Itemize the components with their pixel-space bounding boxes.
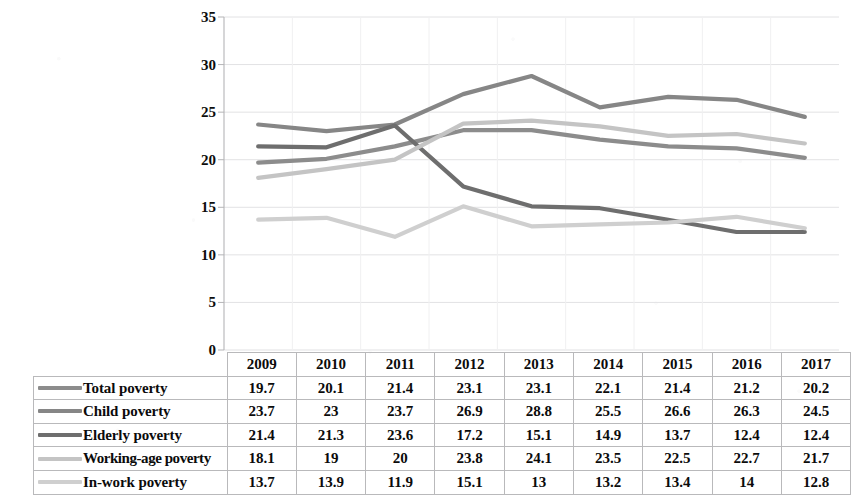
- table-cell: 12.8: [781, 470, 850, 494]
- legend-label: Child poverty: [83, 400, 170, 423]
- y-tick-label-35: 35: [182, 10, 216, 25]
- y-tick-label-20: 20: [182, 153, 216, 168]
- legend-item-total-poverty: Total poverty: [34, 376, 228, 400]
- table-cell: 21.7: [781, 447, 850, 471]
- table-cell: 23.1: [435, 376, 504, 400]
- table-cell: 21.2: [712, 376, 781, 400]
- table-header-2009: 2009: [227, 353, 296, 377]
- series-line-in-work-poverty: [258, 206, 805, 237]
- legend-swatch-icon: [38, 386, 82, 390]
- legend-swatch-icon: [38, 409, 82, 413]
- table-cell: 22.5: [643, 447, 712, 471]
- table-cell: 25.5: [573, 400, 642, 424]
- plot-svg: [0, 0, 841, 352]
- y-tick-label-25: 25: [182, 105, 216, 120]
- table-cell: 14.9: [573, 423, 642, 447]
- table-header-2017: 2017: [781, 353, 850, 377]
- table-cell: 23.8: [435, 447, 504, 471]
- table-cell: 21.3: [296, 423, 365, 447]
- table-cell: 12.4: [781, 423, 850, 447]
- table-row: Total poverty19.720.121.423.123.122.121.…: [34, 376, 851, 400]
- table-cell: 20: [366, 447, 435, 471]
- table-cell: 23.7: [227, 400, 296, 424]
- table-cell: 20.1: [296, 376, 365, 400]
- table-header-2010: 2010: [296, 353, 365, 377]
- legend-item-child-poverty: Child poverty: [34, 400, 228, 424]
- table-cell: 13.2: [573, 470, 642, 494]
- table-cell: 22.1: [573, 376, 642, 400]
- table-cell: 13.7: [227, 470, 296, 494]
- table-cell: 26.9: [435, 400, 504, 424]
- table-cell: 13.4: [643, 470, 712, 494]
- table-cell: 15.1: [504, 423, 573, 447]
- y-tick-label-5: 5: [182, 295, 216, 310]
- y-tick-label-10: 10: [182, 248, 216, 263]
- line-chart-plot: 05101520253035: [0, 0, 841, 352]
- legend-item-working-age-poverty: Working-age poverty: [34, 447, 228, 471]
- table-cell: 21.4: [643, 376, 712, 400]
- table-cell: 26.3: [712, 400, 781, 424]
- table-cell: 19: [296, 447, 365, 471]
- table-cell: 24.5: [781, 400, 850, 424]
- legend-swatch-icon: [38, 457, 82, 461]
- table-cell: 11.9: [366, 470, 435, 494]
- table-header-2012: 2012: [435, 353, 504, 377]
- table-cell: 13.9: [296, 470, 365, 494]
- table-cell: 19.7: [227, 376, 296, 400]
- axis-lines: [218, 17, 771, 350]
- table-cell: 12.4: [712, 423, 781, 447]
- table-cell: 23.7: [366, 400, 435, 424]
- table-corner-cell: [34, 353, 228, 377]
- legend-swatch-icon: [38, 480, 82, 484]
- table-cell: 23: [296, 400, 365, 424]
- data-table: 200920102011201220132014201520162017 Tot…: [33, 352, 851, 495]
- table-cell: 13: [504, 470, 573, 494]
- table-header-2014: 2014: [573, 353, 642, 377]
- table-cell: 21.4: [227, 423, 296, 447]
- table-cell: 23.5: [573, 447, 642, 471]
- table-header-2013: 2013: [504, 353, 573, 377]
- table-header-2011: 2011: [366, 353, 435, 377]
- table-cell: 13.7: [643, 423, 712, 447]
- table-header-2015: 2015: [643, 353, 712, 377]
- y-tick-label-15: 15: [182, 200, 216, 215]
- table-cell: 17.2: [435, 423, 504, 447]
- legend-item-elderly-poverty: Elderly poverty: [34, 423, 228, 447]
- table-cell: 18.1: [227, 447, 296, 471]
- table-cell: 23.1: [504, 376, 573, 400]
- table-header-2016: 2016: [712, 353, 781, 377]
- legend-label: Elderly poverty: [83, 424, 182, 447]
- series-line-child-poverty: [258, 76, 805, 131]
- table-cell: 22.7: [712, 447, 781, 471]
- table-cell: 24.1: [504, 447, 573, 471]
- table-row: Child poverty23.72323.726.928.825.526.62…: [34, 400, 851, 424]
- table-cell: 14: [712, 470, 781, 494]
- table-cell: 26.6: [643, 400, 712, 424]
- legend-swatch-icon: [38, 433, 82, 437]
- table-row: In-work poverty13.713.911.915.11313.213.…: [34, 470, 851, 494]
- legend-label: Working-age poverty: [83, 447, 211, 470]
- gridlines: [224, 17, 839, 350]
- legend-label: Total poverty: [83, 377, 167, 400]
- series-lines: [258, 76, 805, 237]
- table-row: Elderly poverty21.421.323.617.215.114.91…: [34, 423, 851, 447]
- y-tick-label-30: 30: [182, 58, 216, 73]
- table-body: Total poverty19.720.121.423.123.122.121.…: [34, 376, 851, 494]
- table-cell: 20.2: [781, 376, 850, 400]
- table-row: Working-age poverty18.1192023.824.123.52…: [34, 447, 851, 471]
- table-cell: 21.4: [366, 376, 435, 400]
- legend-item-in-work-poverty: In-work poverty: [34, 470, 228, 494]
- table-header-row: 200920102011201220132014201520162017: [34, 353, 851, 377]
- table-cell: 23.6: [366, 423, 435, 447]
- table-cell: 28.8: [504, 400, 573, 424]
- legend-label: In-work poverty: [83, 471, 187, 494]
- table-cell: 15.1: [435, 470, 504, 494]
